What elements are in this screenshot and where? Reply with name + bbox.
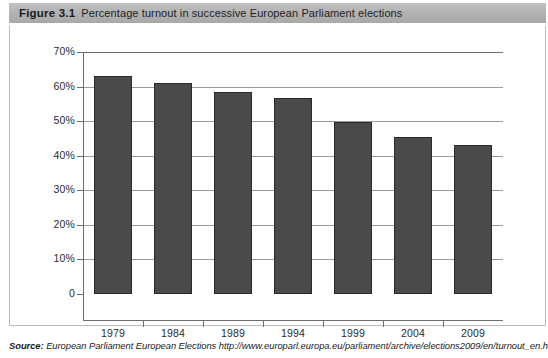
bar-1999 (334, 122, 372, 294)
bar-1979 (94, 76, 132, 294)
y-tick-label: 30% (15, 183, 75, 195)
y-tick-label: 60% (15, 80, 75, 92)
y-axis-tick-labels: 010%20%30%40%50%60%70% (10, 26, 75, 326)
figure-caption: Percentage turnout in successive Europea… (81, 7, 402, 19)
x-tick-label-1984: 1984 (143, 327, 203, 339)
gridline-70% (84, 52, 503, 53)
x-tick-label-2004: 2004 (383, 327, 443, 339)
chart-frame: 010%20%30%40%50%60%70% 19791984198919941… (9, 26, 546, 326)
y-axis-line (83, 52, 84, 321)
source-label: Source: (9, 340, 44, 351)
source-text: European Parliament European Elections h… (46, 340, 548, 351)
x-tick-label-1979: 1979 (83, 327, 143, 339)
gridline-60% (84, 87, 503, 88)
x-axis-line (83, 320, 503, 321)
bar-2004 (394, 137, 432, 294)
x-tick-label-1999: 1999 (323, 327, 383, 339)
y-tick-label: 50% (15, 114, 75, 126)
x-tick-label-2009: 2009 (443, 327, 503, 339)
bar-1984 (154, 83, 192, 294)
x-tick-label-1989: 1989 (203, 327, 263, 339)
bar-1989 (214, 92, 252, 294)
figure-number: Figure 3.1 (19, 7, 75, 19)
bar-2009 (454, 145, 492, 294)
y-tick-label: 70% (15, 45, 75, 57)
y-tick-label: 10% (15, 252, 75, 264)
y-tick-label: 0 (15, 287, 75, 299)
bar-1994 (274, 98, 312, 294)
y-tick-label: 20% (15, 218, 75, 230)
source-note: Source: European Parliament European Ele… (9, 340, 546, 351)
figure-header-band: Figure 3.1 Percentage turnout in success… (9, 3, 546, 23)
x-tick-label-1994: 1994 (263, 327, 323, 339)
y-tick-label: 40% (15, 149, 75, 161)
